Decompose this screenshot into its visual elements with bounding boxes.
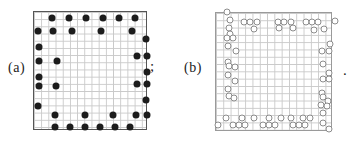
- filled-dot: [49, 15, 56, 22]
- open-circle: [225, 43, 232, 50]
- open-circle: [251, 26, 258, 33]
- panel-a-grid: [33, 11, 147, 130]
- filled-dot: [35, 103, 42, 110]
- filled-dot: [100, 15, 107, 22]
- filled-dot: [53, 83, 60, 90]
- open-circle: [315, 19, 322, 26]
- open-circle: [254, 19, 261, 26]
- panel-a-label: (a): [8, 60, 25, 76]
- open-circle: [326, 76, 333, 83]
- filled-dot: [134, 53, 141, 60]
- filled-dot: [112, 124, 119, 131]
- open-circle: [239, 115, 246, 122]
- open-circle: [327, 41, 334, 48]
- open-circle: [302, 122, 309, 129]
- filled-dot: [69, 28, 76, 35]
- open-circle: [227, 17, 234, 24]
- open-circle: [311, 27, 318, 34]
- filled-dot: [67, 124, 74, 131]
- filled-dot: [134, 81, 141, 88]
- period-terminator: .: [343, 62, 347, 79]
- filled-dot: [50, 28, 57, 35]
- panel-b-grid: [215, 12, 332, 131]
- open-circle: [332, 18, 339, 25]
- open-circle: [288, 115, 295, 122]
- filled-dot: [143, 97, 150, 104]
- filled-dot: [82, 112, 89, 119]
- filled-dot: [82, 124, 89, 131]
- open-circle: [300, 115, 307, 122]
- figure-canvas: (a) ; (b) .: [0, 0, 357, 142]
- filled-dot: [36, 58, 43, 65]
- filled-dot: [98, 28, 105, 35]
- open-circle: [320, 110, 327, 117]
- filled-dot: [97, 124, 104, 131]
- open-circle: [224, 9, 231, 16]
- open-circle: [225, 86, 232, 93]
- open-circle: [272, 122, 279, 129]
- open-circle: [233, 48, 240, 55]
- filled-dot: [36, 44, 43, 51]
- open-circle: [278, 115, 285, 122]
- open-circle: [319, 48, 326, 55]
- open-circle: [321, 26, 328, 33]
- open-circle: [215, 122, 222, 129]
- filled-dot: [110, 112, 117, 119]
- filled-dot: [66, 15, 73, 22]
- filled-dot: [129, 28, 136, 35]
- filled-dot: [127, 124, 134, 131]
- open-circle: [266, 115, 273, 122]
- filled-dot: [143, 36, 150, 43]
- open-circle: [231, 95, 238, 102]
- open-circle: [320, 120, 327, 127]
- filled-dot: [52, 124, 59, 131]
- open-circle: [276, 25, 283, 32]
- filled-dot: [133, 112, 140, 119]
- filled-dot: [54, 58, 61, 65]
- open-circle: [290, 25, 297, 32]
- open-circle: [225, 72, 232, 79]
- filled-dot: [144, 112, 151, 119]
- filled-dot: [36, 83, 43, 90]
- open-circle: [223, 115, 230, 122]
- open-circle: [247, 19, 254, 26]
- open-circle: [324, 103, 331, 110]
- open-circle: [307, 115, 314, 122]
- open-circle: [320, 61, 327, 68]
- filled-dot: [132, 15, 139, 22]
- panel-b-label: (b): [184, 60, 202, 76]
- semicolon-separator: ;: [150, 58, 154, 75]
- open-circle: [230, 35, 237, 42]
- filled-dot: [83, 15, 90, 22]
- filled-dot: [36, 74, 43, 81]
- open-circle: [242, 122, 249, 129]
- open-circle: [232, 64, 239, 71]
- open-circle: [281, 19, 288, 26]
- open-circle: [251, 115, 258, 122]
- filled-dot: [116, 15, 123, 22]
- open-circle: [326, 48, 333, 55]
- open-circle: [326, 126, 333, 133]
- open-circle: [232, 78, 239, 85]
- filled-dot: [144, 81, 151, 88]
- filled-dot: [52, 112, 59, 119]
- filled-dot: [35, 28, 42, 35]
